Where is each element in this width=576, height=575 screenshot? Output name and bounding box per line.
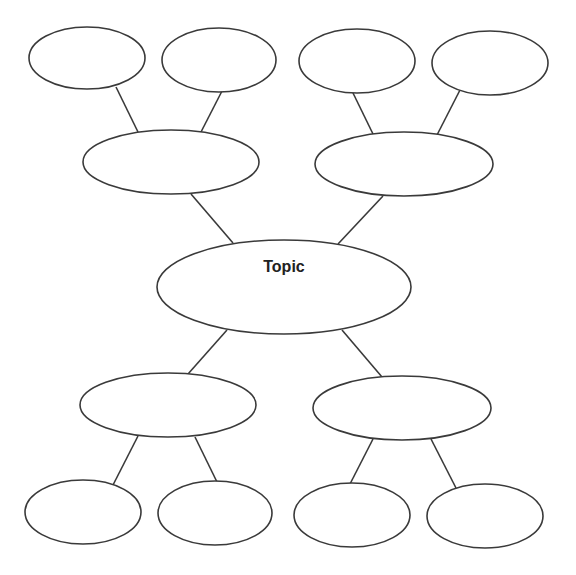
connector-branch-bottom-left-to-leaf-6 <box>195 437 217 482</box>
connector-branch-bottom-right-to-leaf-8 <box>431 439 456 488</box>
leaf-node-leaf-7[interactable] <box>294 483 410 547</box>
branch-ellipse[interactable] <box>83 130 259 194</box>
topic-node-topic[interactable]: Topic <box>157 240 411 334</box>
leaf-ellipse[interactable] <box>427 484 543 548</box>
branch-node-branch-top-right[interactable] <box>315 132 493 196</box>
connector-topic-to-branch-top-right <box>338 196 383 244</box>
connector-branch-bottom-right-to-leaf-7 <box>350 439 373 484</box>
leaf-ellipse[interactable] <box>432 31 548 95</box>
topic-ellipse[interactable] <box>157 240 411 334</box>
branch-ellipse[interactable] <box>80 373 256 437</box>
mind-map-nodes: Topic <box>25 27 548 548</box>
connector-topic-to-branch-bottom-right <box>342 330 382 377</box>
leaf-node-leaf-6[interactable] <box>158 481 272 545</box>
connector-topic-to-branch-top-left <box>191 194 233 243</box>
mind-map-canvas: Topic <box>0 0 576 575</box>
leaf-node-leaf-4[interactable] <box>432 31 548 95</box>
branch-ellipse[interactable] <box>315 132 493 196</box>
leaf-node-leaf-5[interactable] <box>25 480 141 544</box>
leaf-ellipse[interactable] <box>299 29 415 93</box>
topic-label: Topic <box>263 258 305 275</box>
connector-branch-top-left-to-leaf-2 <box>201 91 222 132</box>
branch-node-branch-bottom-left[interactable] <box>80 373 256 437</box>
leaf-node-leaf-8[interactable] <box>427 484 543 548</box>
leaf-node-leaf-1[interactable] <box>29 27 145 89</box>
leaf-ellipse[interactable] <box>294 483 410 547</box>
connector-branch-top-left-to-leaf-1 <box>116 87 138 132</box>
leaf-ellipse[interactable] <box>162 28 276 92</box>
leaf-ellipse[interactable] <box>158 481 272 545</box>
branch-node-branch-bottom-right[interactable] <box>313 376 491 440</box>
leaf-node-leaf-3[interactable] <box>299 29 415 93</box>
connector-branch-bottom-left-to-leaf-5 <box>113 436 138 485</box>
connector-branch-top-right-to-leaf-4 <box>437 90 460 135</box>
connector-branch-top-right-to-leaf-3 <box>353 93 373 134</box>
leaf-node-leaf-2[interactable] <box>162 28 276 92</box>
connector-topic-to-branch-bottom-left <box>188 330 227 374</box>
leaf-ellipse[interactable] <box>29 27 145 89</box>
branch-node-branch-top-left[interactable] <box>83 130 259 194</box>
leaf-ellipse[interactable] <box>25 480 141 544</box>
branch-ellipse[interactable] <box>313 376 491 440</box>
